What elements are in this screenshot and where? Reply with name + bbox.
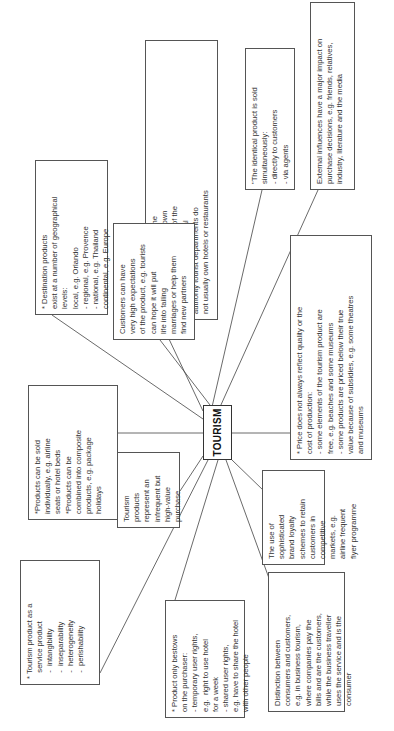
node-products-sold: *Products can be sold individually, e.g.… [28, 385, 118, 520]
node-service-product: * Tourism product as a service product -… [20, 560, 100, 685]
tourism-mind-map: TOURISM *Organizations marketing the des… [0, 0, 394, 731]
connector-high-expectations [160, 340, 210, 405]
node-external-influences: External influences have a major impact … [310, 2, 355, 190]
node-price: * Price does not always reflect quality … [290, 235, 372, 460]
node-infrequent-purchase: Tourism products represent an infrequent… [117, 452, 180, 528]
connector-user-rights [175, 460, 218, 600]
node-identical-product: "The identical product is sold simultane… [245, 48, 295, 190]
node-high-expectations: Customers can have very high expectation… [113, 223, 195, 340]
connector-brand-loyalty [232, 460, 264, 491]
node-consumers-customers: Distinction between consumers and custom… [268, 572, 345, 712]
connector-identical-product [212, 190, 262, 407]
node-brand-loyalty: The use of sophisticated brand loyalty s… [262, 470, 325, 565]
connector-infrequent [180, 456, 203, 491]
node-destination-products: * Destination products exist at a number… [35, 160, 108, 315]
node-user-rights: * Product only bestows on the purchaser:… [165, 600, 245, 718]
center-node-tourism: TOURISM [203, 405, 232, 460]
